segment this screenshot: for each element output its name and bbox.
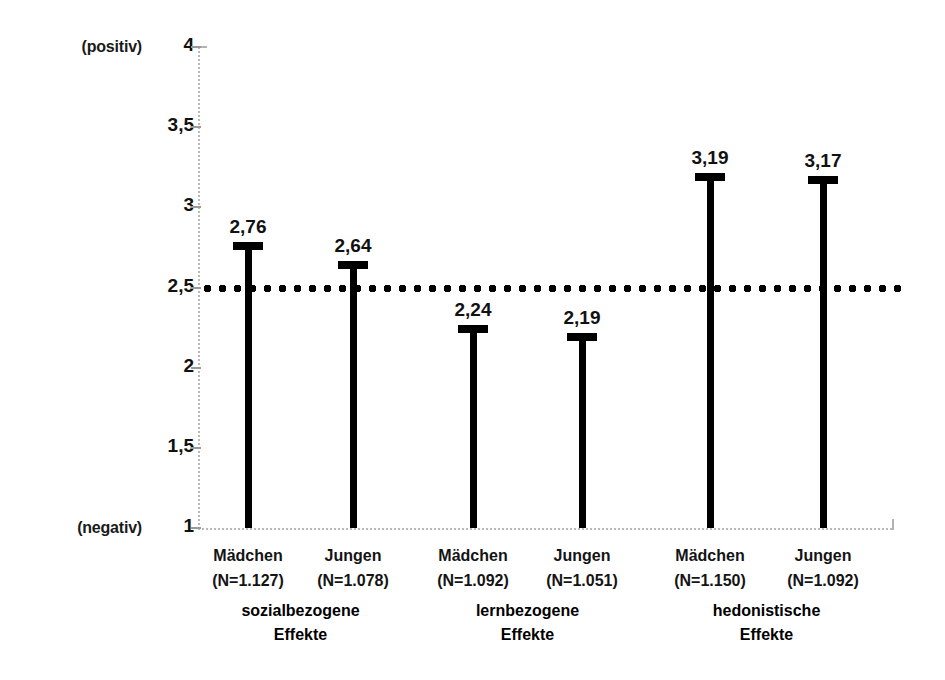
bar-cap xyxy=(338,261,368,269)
bar-stem xyxy=(470,329,477,528)
bar-cap xyxy=(695,173,725,181)
bar-stem xyxy=(350,265,357,528)
y-axis-tick-label: 2 xyxy=(134,355,194,377)
y-axis-tick-label: 1,5 xyxy=(134,435,194,457)
bar-stem xyxy=(820,180,827,528)
y-axis-tick-label: 1 xyxy=(134,515,194,537)
y-axis-tick-mark xyxy=(191,527,201,529)
y-axis-tick-label: 2,5 xyxy=(134,275,194,297)
category-name: Jungen xyxy=(748,543,898,568)
y-axis-tick-label: 3,5 xyxy=(134,114,194,136)
y-axis-tick-mark xyxy=(191,46,201,48)
group-label-line-1: hedonistische xyxy=(637,599,897,623)
y-axis-positive-annotation: (positiv) xyxy=(30,38,142,56)
bar-stem xyxy=(707,177,714,528)
x-axis-group-label: lernbezogeneEffekte xyxy=(398,599,658,647)
x-axis-group-label: sozialbezogeneEffekte xyxy=(171,599,431,647)
x-axis-line xyxy=(198,528,894,530)
bar-value-label: 2,64 xyxy=(308,235,398,257)
chart-canvas: (positiv) (negativ) 43,532,521,51 2,762,… xyxy=(0,0,945,680)
bar-stem xyxy=(245,246,252,528)
y-axis-tick-mark xyxy=(191,367,201,369)
bar-cap xyxy=(233,242,263,250)
bar-cap xyxy=(567,333,597,341)
group-label-line-2: Effekte xyxy=(398,623,658,647)
y-axis-tick-mark xyxy=(191,126,201,128)
group-label-line-2: Effekte xyxy=(171,623,431,647)
x-axis-category-label: Jungen(N=1.092) xyxy=(748,543,898,593)
x-axis-group-label: hedonistischeEffekte xyxy=(637,599,897,647)
bar-value-label: 3,19 xyxy=(665,147,755,169)
y-axis-tick-mark xyxy=(191,206,201,208)
group-label-line-1: lernbezogene xyxy=(398,599,658,623)
bar-cap xyxy=(458,325,488,333)
bar-stem xyxy=(579,337,586,528)
y-axis-tick-mark xyxy=(191,447,201,449)
bar-value-label: 2,76 xyxy=(203,216,293,238)
y-axis-tick-label: 3 xyxy=(134,194,194,216)
reference-line-2-5 xyxy=(200,285,906,292)
bar-cap xyxy=(808,176,838,184)
y-axis-negative-annotation: (negativ) xyxy=(30,519,142,537)
x-axis-end-cap xyxy=(892,519,894,530)
category-sample-size: (N=1.092) xyxy=(748,568,898,593)
y-axis-tick-label: 4 xyxy=(134,34,194,56)
bar-value-label: 2,19 xyxy=(537,307,627,329)
bar-value-label: 3,17 xyxy=(778,150,868,172)
group-label-line-1: sozialbezogene xyxy=(171,599,431,623)
group-label-line-2: Effekte xyxy=(637,623,897,647)
bar-value-label: 2,24 xyxy=(428,299,518,321)
